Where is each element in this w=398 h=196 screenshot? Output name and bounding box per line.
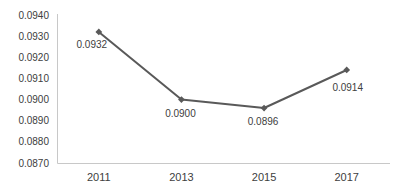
- data-point-label: 0.0914: [332, 82, 363, 93]
- x-tick-label: 2011: [87, 171, 111, 183]
- data-series-line: [99, 32, 347, 108]
- y-tick-label: 0.0920: [18, 52, 49, 63]
- line-chart-canvas: 0.09400.09300.09200.09100.09000.08900.08…: [0, 0, 398, 196]
- x-tick-label: 2017: [334, 171, 358, 183]
- data-point-label: 0.0932: [77, 39, 108, 50]
- data-point-marker: [261, 105, 268, 112]
- y-tick-label: 0.0930: [18, 31, 49, 42]
- data-point-label: 0.0900: [165, 108, 196, 119]
- data-point-marker: [343, 67, 350, 74]
- y-tick-label: 0.0880: [18, 136, 49, 147]
- data-point-label: 0.0896: [248, 116, 279, 127]
- x-tick-label: 2013: [169, 171, 193, 183]
- y-tick-label: 0.0900: [18, 94, 49, 105]
- y-tick-label: 0.0870: [18, 158, 49, 169]
- y-tick-label: 0.0910: [18, 73, 49, 84]
- y-tick-label: 0.0940: [18, 10, 49, 21]
- x-tick-label: 2015: [252, 171, 276, 183]
- y-tick-label: 0.0890: [18, 115, 49, 126]
- line-chart: 0.09400.09300.09200.09100.09000.08900.08…: [0, 0, 398, 196]
